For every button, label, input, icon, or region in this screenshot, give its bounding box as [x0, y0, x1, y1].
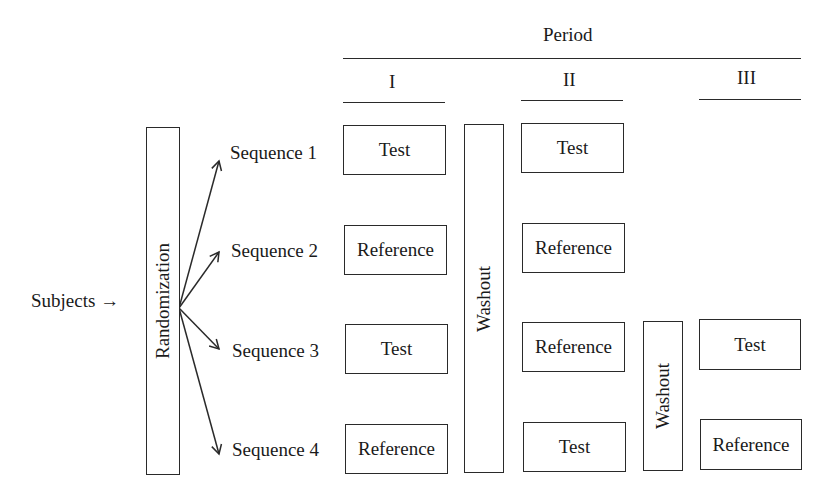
treatment-label: Reference — [535, 336, 612, 358]
randomization-box: Randomization — [146, 127, 180, 475]
period-iii-underline — [699, 99, 801, 100]
treatment-box-seq2-period1: Reference — [344, 225, 447, 275]
washout-box-2: Washout — [643, 321, 683, 471]
period-iii-label: III — [737, 67, 756, 89]
period-ii-underline — [521, 100, 623, 101]
treatment-label: Test — [379, 139, 410, 161]
washout-box-1: Washout — [464, 124, 504, 473]
treatment-label: Test — [381, 338, 412, 360]
treatment-label: Reference — [357, 239, 434, 261]
period-ii-label: II — [563, 69, 576, 91]
treatment-label: Test — [734, 334, 765, 356]
treatment-box-seq1-period2: Test — [521, 123, 624, 173]
sequence-2-label: Sequence 2 — [231, 240, 318, 262]
treatment-box-seq2-period2: Reference — [522, 223, 625, 273]
washout-label: Washout — [473, 265, 495, 331]
sequence-1-label: Sequence 1 — [230, 142, 317, 164]
subjects-label: Subjects → — [31, 290, 119, 312]
treatment-box-seq3-period1: Test — [345, 324, 448, 374]
period-divider — [343, 58, 801, 59]
treatment-box-seq4-period2: Test — [523, 422, 626, 472]
sequence-4-label: Sequence 4 — [232, 439, 319, 461]
arrow-sequence-1 — [179, 161, 219, 308]
period-i-label: I — [389, 71, 395, 93]
randomization-label: Randomization — [152, 243, 174, 359]
treatment-box-seq3-period2: Reference — [522, 322, 625, 372]
treatment-box-seq1-period1: Test — [343, 125, 446, 175]
treatment-label: Reference — [535, 237, 612, 259]
treatment-box-seq4-period1: Reference — [345, 424, 448, 474]
arrow-sequence-4 — [179, 308, 219, 454]
washout-label: Washout — [652, 363, 674, 429]
treatment-label: Test — [557, 137, 588, 159]
treatment-label: Test — [559, 436, 590, 458]
treatment-label: Reference — [713, 434, 790, 456]
period-title: Period — [543, 24, 593, 46]
arrow-sequence-2 — [179, 252, 219, 308]
treatment-box-seq3-period3: Test — [699, 319, 801, 370]
period-i-underline — [343, 102, 445, 103]
treatment-box-seq4-period3: Reference — [700, 419, 802, 470]
treatment-label: Reference — [358, 438, 435, 460]
sequence-3-label: Sequence 3 — [232, 340, 319, 362]
